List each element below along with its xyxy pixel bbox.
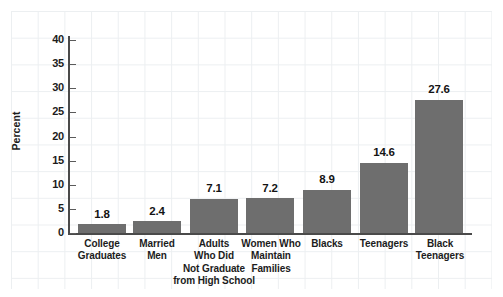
y-tick-label-15: 15 — [34, 154, 64, 166]
bar-women-maintain-families[interactable] — [246, 198, 294, 233]
y-tick-mark-35 — [70, 64, 76, 65]
y-tick-label-40: 40 — [34, 33, 64, 45]
category-line: from High School — [164, 275, 264, 287]
y-tick-label-25: 25 — [34, 105, 64, 117]
y-tick-label-35-wrap: 35 — [34, 57, 64, 70]
y-tick-label-0: 0 — [34, 226, 64, 238]
bar-college-graduates[interactable] — [78, 224, 126, 233]
plot-area: Percent 40 35 30 25 20 15 10 — [0, 0, 503, 297]
y-tick-mark-5 — [70, 209, 76, 210]
bar-value-college-graduates: 1.8 — [78, 208, 126, 220]
y-axis-line — [68, 36, 70, 234]
category-label-blacks: Blacks — [297, 238, 357, 250]
y-tick-label-15-wrap: 15 — [34, 154, 64, 167]
y-axis-title: Percent — [10, 101, 22, 161]
y-tick-label-25-wrap: 25 — [34, 105, 64, 118]
y-tick-label-10: 10 — [34, 178, 64, 190]
category-label-women-maintain-families: Women Who Maintain Families — [240, 238, 302, 275]
category-line: Blacks — [297, 238, 357, 250]
bar-value-blacks: 8.9 — [303, 173, 351, 185]
y-tick-mark-10 — [70, 185, 76, 186]
bar-teenagers[interactable] — [360, 163, 408, 233]
bar-chart-figure: Percent 40 35 30 25 20 15 10 — [0, 0, 503, 297]
bar-adults-no-hs-diploma[interactable] — [190, 199, 238, 233]
category-line: Black — [405, 238, 475, 250]
bar-value-teenagers: 14.6 — [360, 146, 408, 158]
y-tick-mark-25 — [70, 112, 76, 113]
bar-value-women-maintain-families: 7.2 — [246, 182, 294, 194]
y-tick-label-5-wrap: 5 — [34, 202, 64, 215]
y-tick-label-40-wrap: 40 — [34, 33, 64, 46]
y-tick-label-20: 20 — [34, 130, 64, 142]
bar-married-men[interactable] — [133, 221, 181, 233]
y-tick-label-30-wrap: 30 — [34, 81, 64, 94]
category-line: Families — [240, 263, 302, 275]
y-tick-label-35: 35 — [34, 57, 64, 69]
bar-value-adults-no-hs-diploma: 7.1 — [190, 182, 238, 194]
bar-blacks[interactable] — [303, 190, 351, 233]
y-tick-label-30: 30 — [34, 81, 64, 93]
category-line: Women Who — [240, 238, 302, 250]
y-tick-label-0-wrap: 0 — [34, 226, 64, 239]
y-tick-mark-30 — [70, 88, 76, 89]
y-tick-label-20-wrap: 20 — [34, 130, 64, 143]
bar-black-teenagers[interactable] — [415, 100, 463, 233]
bar-value-black-teenagers: 27.6 — [415, 83, 463, 95]
y-tick-mark-0 — [70, 233, 76, 234]
bar-value-married-men: 2.4 — [133, 205, 181, 217]
y-tick-mark-20 — [70, 137, 76, 138]
category-line: Maintain — [240, 250, 302, 262]
y-tick-mark-15 — [70, 161, 76, 162]
category-line: Teenagers — [405, 250, 475, 262]
y-tick-label-5: 5 — [34, 202, 64, 214]
y-tick-mark-40 — [70, 40, 76, 41]
category-label-black-teenagers: Black Teenagers — [405, 238, 475, 263]
y-tick-label-10-wrap: 10 — [34, 178, 64, 191]
x-axis-line — [68, 233, 472, 235]
